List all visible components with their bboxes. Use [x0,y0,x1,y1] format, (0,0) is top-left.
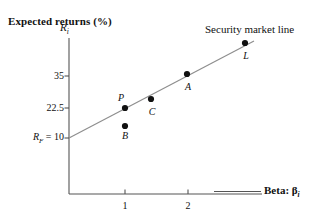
x-tick-label-1: 1 [123,201,128,211]
data-point-L [242,40,248,46]
security-market-line-annotation: Security market line [205,24,294,35]
y-tick-label-22.5: 22.5 [30,103,64,113]
risk-free-value: = 10 [43,131,64,142]
y-axis-label-subscript: i [67,27,69,36]
x-axis-label-subscript: i [298,190,300,199]
data-point-C [148,96,154,102]
x-tick-label-2: 2 [186,201,191,211]
security-market-line-chart: Expected returns (%) Ri Beta: βi 35 22.5… [0,0,320,220]
security-market-line [69,41,254,138]
data-point-label-C: C [149,107,156,117]
data-point-label-B: B [122,131,128,141]
data-point-label-P: P [118,93,124,103]
y-axis-label-text: R [60,21,67,33]
y-tick-label-risk-free-rate: RF = 10 [12,132,64,145]
data-point-label-A: A [185,82,191,92]
data-point-B [122,123,128,129]
data-point-A [184,71,190,77]
x-axis-label: Beta: βi [264,185,300,199]
y-axis-label: Ri [60,22,69,36]
data-point-label-L: L [243,51,249,61]
data-point-P [122,105,128,111]
y-tick-label-35: 35 [38,71,64,81]
x-axis-label-text: Beta: β [264,184,298,196]
